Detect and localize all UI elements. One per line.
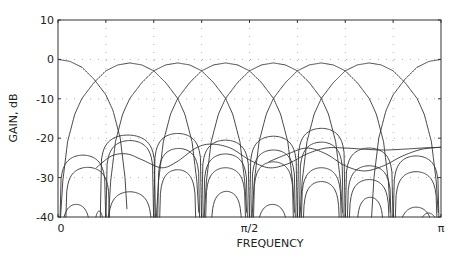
main-lobe-curve [299,63,438,225]
main-lobe-curve [251,63,390,225]
main-lobe-curve [60,63,199,225]
y-axis-ticks: 100-10-20-30-40 [36,14,441,224]
sidelobe-arc [357,197,384,225]
main-lobe-curve [58,59,127,209]
sidelobe-arc [347,166,391,225]
y-tick-label: 0 [47,53,54,66]
sidelobe-arc [250,136,298,225]
sidelobe-arc [94,211,104,225]
sidelobe-arc [202,140,250,225]
sidelobe-arc [297,128,345,225]
main-lobe-curve [204,63,343,225]
y-tick-label: -40 [36,211,54,224]
filter-bank-frequency-response-chart: 100-10-20-30-40 0π/2π FREQUENCY GAIN, dB [0,0,466,259]
y-tick-label: -10 [36,93,54,106]
sidelobe-arc [158,148,200,224]
sidelobe-arc [349,180,389,225]
sidelobe-arc [211,191,242,224]
x-axis-ticks: 0π/2π [58,20,445,235]
x-axis-title: FREQUENCY [236,237,303,250]
sidelobe-arc [108,192,152,225]
main-lobe-curve [156,63,295,225]
sidelobe-arc [253,162,293,225]
y-tick-label: -30 [36,172,54,185]
sidelobe-arc [257,204,288,224]
y-tick-label: 10 [40,14,54,27]
x-tick-label: 0 [58,222,65,235]
sidelobe-arc [303,182,339,225]
y-tick-label: -20 [36,132,54,145]
y-axis-title: GAIN, dB [7,93,20,142]
x-tick-label: π/2 [241,222,258,235]
main-lobe-curve [108,63,247,225]
x-tick-label: π [438,222,445,235]
aliasing-curve [96,144,441,168]
aliasing-curve [269,147,441,171]
sidelobe-arc [399,207,433,225]
sidelobe-arc [106,141,154,225]
sidelobe-arc [251,150,295,225]
sidelobe-arc [154,133,202,224]
sidelobe-arc [301,168,341,225]
